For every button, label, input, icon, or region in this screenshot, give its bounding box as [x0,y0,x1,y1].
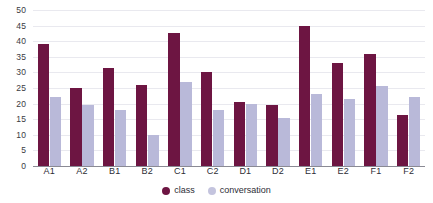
y-axis-tick-label: 25 [16,84,26,93]
bar-class-F1 [364,54,376,166]
bar-class-A1 [38,44,50,166]
bar-group [33,10,66,166]
legend-item-class[interactable]: class [162,186,195,195]
bar-class-B1 [103,68,115,166]
x-axis-tick-label: B2 [142,167,153,176]
x-axis-tick-label: A2 [76,167,87,176]
legend-swatch-icon [162,187,170,195]
bar-group [392,10,425,166]
x-axis-tick-label: C1 [174,167,186,176]
bar-group [164,10,197,166]
bar-conversation-B2 [148,135,160,166]
y-axis-tick-label: 5 [21,146,26,155]
bar-class-E1 [299,26,311,166]
bar-group [196,10,229,166]
y-axis-tick-label: 40 [16,37,26,46]
bar-class-C1 [168,33,180,166]
bar-class-D1 [234,102,246,166]
bar-conversation-A2 [82,105,94,166]
x-axis-tick-label: F2 [403,167,414,176]
bar-conversation-C1 [180,82,192,166]
x-axis: A1A2B1B2C1C2D1D2E1E2F1F2 [33,167,425,183]
legend-item-conversation[interactable]: conversation [208,186,271,195]
y-axis-tick-label: 15 [16,115,26,124]
plot-area [33,10,425,166]
bar-conversation-C2 [213,110,225,166]
bar-group [294,10,327,166]
legend-label: class [174,186,195,195]
bar-conversation-E1 [311,94,323,166]
chart-legend: classconversation [0,186,433,195]
x-axis-tick-label: E2 [338,167,349,176]
bar-conversation-D2 [278,118,290,166]
bar-class-A2 [70,88,82,166]
bar-group [98,10,131,166]
y-axis-tick-label: 0 [21,162,26,171]
y-axis-tick-label: 35 [16,53,26,62]
y-axis-tick-label: 30 [16,68,26,77]
bar-class-D2 [266,105,278,166]
y-axis: 05101520253035404550 [0,10,30,166]
bar-conversation-A1 [50,97,62,166]
bar-group [131,10,164,166]
bar-group [229,10,262,166]
bar-group [262,10,295,166]
bar-conversation-D1 [246,104,258,166]
x-axis-tick-label: D1 [239,167,251,176]
bar-conversation-E2 [344,99,356,166]
x-axis-tick-label: D2 [272,167,284,176]
bar-conversation-F1 [376,86,388,166]
y-axis-tick-label: 20 [16,99,26,108]
y-axis-tick-label: 10 [16,131,26,140]
bar-class-C2 [201,72,213,166]
bar-conversation-B1 [115,110,127,166]
bar-group [327,10,360,166]
bar-class-B2 [136,85,148,166]
x-axis-tick-label: B1 [109,167,120,176]
bar-class-F2 [397,115,409,166]
legend-label: conversation [220,186,271,195]
bar-conversation-F2 [409,97,421,166]
x-axis-tick-label: A1 [44,167,55,176]
y-axis-tick-label: 50 [16,6,26,15]
x-axis-tick-label: C2 [207,167,219,176]
bar-group [360,10,393,166]
bars-layer [33,10,425,166]
y-axis-tick-label: 45 [16,21,26,30]
x-axis-tick-label: F1 [371,167,382,176]
bar-group [66,10,99,166]
legend-swatch-icon [208,187,216,195]
bar-chart: 05101520253035404550 A1A2B1B2C1C2D1D2E1E… [0,0,433,203]
x-axis-tick-label: E1 [305,167,316,176]
bar-class-E2 [332,63,344,166]
